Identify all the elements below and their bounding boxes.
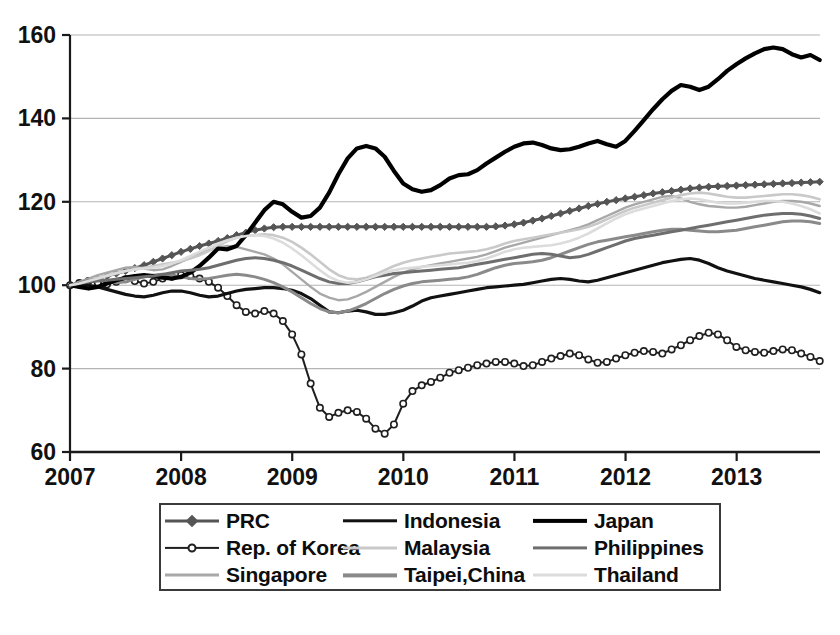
data-marker bbox=[298, 351, 304, 357]
data-marker bbox=[668, 187, 675, 194]
legend-item-taipei-china[interactable]: Taipei,China bbox=[343, 562, 533, 589]
data-marker bbox=[613, 355, 619, 361]
data-marker bbox=[548, 212, 555, 219]
data-marker bbox=[705, 330, 711, 336]
data-marker bbox=[779, 180, 786, 187]
data-marker bbox=[400, 400, 406, 406]
legend-swatch-icon bbox=[165, 541, 219, 555]
data-marker bbox=[465, 365, 471, 371]
data-marker bbox=[372, 223, 379, 230]
data-marker bbox=[502, 359, 508, 365]
data-marker bbox=[641, 348, 647, 354]
data-marker bbox=[483, 360, 489, 366]
data-marker bbox=[520, 219, 527, 226]
legend-item-malaysia[interactable]: Malaysia bbox=[343, 534, 533, 561]
data-marker bbox=[418, 223, 425, 230]
data-marker bbox=[520, 363, 526, 369]
data-marker bbox=[261, 308, 267, 314]
data-marker bbox=[141, 280, 147, 286]
legend-item-philippines[interactable]: Philippines bbox=[533, 534, 723, 561]
data-marker bbox=[511, 221, 518, 228]
data-marker bbox=[298, 223, 305, 230]
data-marker bbox=[557, 210, 564, 217]
x-tick-labels: 2007200820092010201120122013 bbox=[44, 464, 762, 490]
legend-swatch-icon bbox=[533, 568, 587, 582]
data-marker bbox=[687, 337, 693, 343]
data-marker bbox=[576, 352, 582, 358]
legend-swatch-icon bbox=[533, 541, 587, 555]
data-marker bbox=[742, 347, 748, 353]
data-marker bbox=[317, 405, 323, 411]
data-marker bbox=[344, 407, 350, 413]
data-marker bbox=[788, 179, 795, 186]
legend-item-singapore[interactable]: Singapore bbox=[165, 562, 343, 589]
data-marker bbox=[381, 430, 387, 436]
data-marker bbox=[428, 379, 434, 385]
data-marker bbox=[409, 223, 416, 230]
data-marker bbox=[252, 310, 258, 316]
x-tick-label: 2009 bbox=[267, 464, 318, 490]
data-series-group bbox=[66, 48, 823, 437]
data-marker bbox=[437, 223, 444, 230]
data-marker bbox=[409, 388, 415, 394]
data-marker bbox=[279, 223, 286, 230]
x-tick-label: 2012 bbox=[600, 464, 651, 490]
data-marker bbox=[770, 180, 777, 187]
data-marker bbox=[798, 179, 805, 186]
legend-label: PRC bbox=[226, 509, 270, 533]
data-marker bbox=[326, 223, 333, 230]
legend-item-rep-of-korea[interactable]: Rep. of Korea bbox=[165, 534, 343, 561]
legend-label: Taipei,China bbox=[404, 563, 525, 587]
data-marker bbox=[270, 310, 276, 316]
legend-item-japan[interactable]: Japan bbox=[533, 507, 723, 534]
data-marker bbox=[335, 410, 341, 416]
y-tick-label: 80 bbox=[30, 356, 56, 382]
data-marker bbox=[353, 223, 360, 230]
data-marker bbox=[391, 421, 397, 427]
data-marker bbox=[779, 346, 785, 352]
legend-swatch-icon bbox=[343, 541, 397, 555]
data-marker bbox=[446, 223, 453, 230]
data-marker bbox=[622, 352, 628, 358]
data-marker bbox=[455, 223, 462, 230]
data-marker bbox=[696, 184, 703, 191]
legend-label: Rep. of Korea bbox=[226, 536, 360, 560]
chart-page: 1601401201008060 20072008200920102011201… bbox=[0, 0, 840, 635]
data-marker bbox=[714, 183, 721, 190]
data-marker bbox=[715, 331, 721, 337]
y-tick-labels: 1601401201008060 bbox=[18, 22, 56, 465]
y-tick-label: 60 bbox=[30, 439, 56, 465]
data-marker bbox=[575, 205, 582, 212]
data-marker bbox=[326, 414, 332, 420]
chart-legend: PRCIndonesiaJapanRep. of KoreaMalaysiaPh… bbox=[159, 503, 721, 591]
line-chart: 1601401201008060 20072008200920102011201… bbox=[0, 0, 840, 490]
data-marker bbox=[742, 182, 749, 189]
legend-swatch-icon bbox=[343, 514, 397, 528]
data-marker bbox=[668, 346, 674, 352]
data-marker bbox=[501, 222, 508, 229]
data-marker bbox=[538, 215, 545, 222]
gridlines bbox=[70, 35, 820, 452]
legend-item-indonesia[interactable]: Indonesia bbox=[343, 507, 533, 534]
legend-item-prc[interactable]: PRC bbox=[165, 507, 343, 534]
data-marker bbox=[761, 181, 768, 188]
data-marker bbox=[659, 350, 665, 356]
data-marker bbox=[594, 360, 600, 366]
data-marker bbox=[539, 359, 545, 365]
data-marker bbox=[548, 355, 554, 361]
data-marker bbox=[751, 181, 758, 188]
legend-item-thailand[interactable]: Thailand bbox=[533, 562, 723, 589]
data-marker bbox=[687, 185, 694, 192]
data-marker bbox=[390, 223, 397, 230]
data-marker bbox=[530, 362, 536, 368]
data-marker bbox=[529, 217, 536, 224]
data-marker bbox=[474, 223, 481, 230]
data-marker bbox=[567, 350, 573, 356]
data-marker bbox=[752, 349, 758, 355]
data-marker bbox=[585, 202, 592, 209]
data-marker bbox=[761, 350, 767, 356]
data-marker bbox=[483, 223, 490, 230]
legend-swatch-icon bbox=[533, 514, 587, 528]
series-indonesia bbox=[70, 259, 820, 315]
data-marker bbox=[187, 245, 194, 252]
